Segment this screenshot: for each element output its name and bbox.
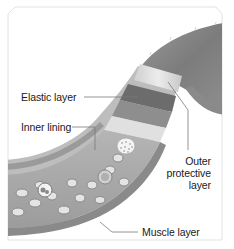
label-muscle-layer: Muscle layer (142, 226, 200, 238)
label-outer-protective-line3: layer (150, 179, 211, 191)
label-outer-protective-line1: Outer (150, 155, 211, 167)
label-outer-protective-line2: protective (150, 167, 211, 179)
label-outer-protective-layer: Outer protective layer (150, 155, 211, 191)
label-elastic-layer: Elastic layer (21, 91, 76, 103)
diagram-card: Elastic layer Inner lining Outer protect… (0, 0, 234, 249)
label-inner-lining: Inner lining (21, 121, 71, 133)
